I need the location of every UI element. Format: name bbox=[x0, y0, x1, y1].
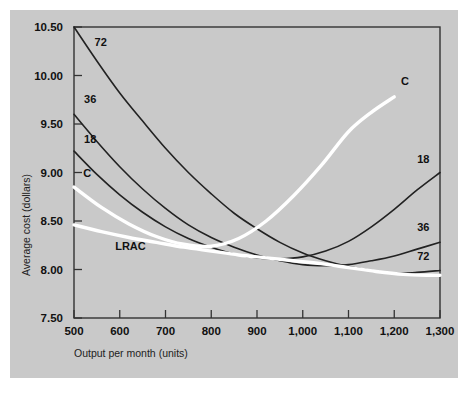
curve-label-18-2: 18 bbox=[84, 133, 96, 145]
y-axis-tick-labels: 7.508.008.509.009.5010.0010.50 bbox=[34, 21, 63, 324]
curve-C bbox=[74, 97, 394, 247]
cost-curves-chart: 7.508.008.509.009.5010.0010.50 500600700… bbox=[0, 0, 473, 393]
curve-label-36-1: 36 bbox=[84, 93, 96, 105]
data-curves-group bbox=[74, 27, 440, 275]
plot-frame bbox=[74, 27, 440, 318]
y-tick-label-9.00: 9.00 bbox=[41, 167, 63, 179]
y-axis-title: Average cost (dollars) bbox=[20, 174, 32, 276]
x-tick-label-1,200: 1,200 bbox=[380, 325, 409, 337]
curve-label-72-8: 72 bbox=[417, 250, 429, 262]
curve-label-72-0: 72 bbox=[95, 36, 107, 48]
y-tick-label-9.50: 9.50 bbox=[41, 118, 63, 130]
axes-group bbox=[74, 27, 440, 318]
y-tick-label-7.50: 7.50 bbox=[41, 312, 63, 324]
axis-ticks-group bbox=[74, 27, 440, 318]
x-axis-tick-labels: 5006007008009001,0001,1001,2001,300 bbox=[64, 325, 454, 337]
x-tick-label-700: 700 bbox=[156, 325, 175, 337]
figure-canvas: 7.508.008.509.009.5010.0010.50 500600700… bbox=[0, 0, 473, 393]
x-tick-label-1,000: 1,000 bbox=[288, 325, 317, 337]
x-tick-label-1,100: 1,100 bbox=[334, 325, 363, 337]
x-tick-label-800: 800 bbox=[202, 325, 221, 337]
x-axis-title: Output per month (units) bbox=[74, 347, 188, 359]
x-tick-label-900: 900 bbox=[247, 325, 266, 337]
y-tick-label-8.00: 8.00 bbox=[41, 264, 63, 276]
curve-label-18-6: 18 bbox=[417, 153, 429, 165]
x-tick-label-500: 500 bbox=[64, 325, 83, 337]
x-tick-label-1,300: 1,300 bbox=[426, 325, 455, 337]
y-tick-label-10.00: 10.00 bbox=[34, 70, 63, 82]
y-tick-label-8.50: 8.50 bbox=[41, 215, 63, 227]
curve-label-C-5: C bbox=[401, 75, 409, 87]
y-tick-label-10.50: 10.50 bbox=[34, 21, 63, 33]
curve-label-LRAC-4: LRAC bbox=[115, 240, 146, 252]
curve-label-36-7: 36 bbox=[417, 221, 429, 233]
x-tick-label-600: 600 bbox=[110, 325, 129, 337]
curve-label-C-3: C bbox=[83, 167, 91, 179]
